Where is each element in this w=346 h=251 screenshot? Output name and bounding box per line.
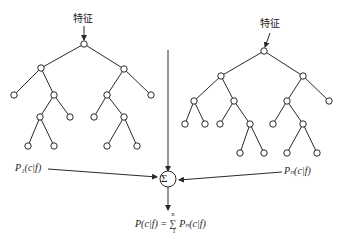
left-tree-nodes: [11, 41, 154, 149]
sum-upper-limit: n: [171, 211, 174, 217]
right-tree: [185, 33, 329, 153]
left-tree-output-label: P₁(c|f): [15, 162, 41, 173]
sum-operator: ∑ n 1: [169, 218, 176, 229]
left-feature-label: 特征: [73, 10, 93, 25]
right-feature-label: 特征: [260, 15, 280, 30]
result-rhs: Pₙ(c|f): [179, 218, 206, 229]
sum-lower-limit: 1: [172, 228, 175, 234]
sum-symbol: Σ: [161, 172, 167, 184]
right-tree-nodes: [182, 48, 332, 156]
right-tree-output-label: Pₙ(c|f): [284, 165, 311, 176]
result-formula: P(c|f) = ∑ n 1 Pₙ(c|f): [135, 218, 206, 229]
result-lhs: P(c|f) =: [135, 218, 167, 229]
